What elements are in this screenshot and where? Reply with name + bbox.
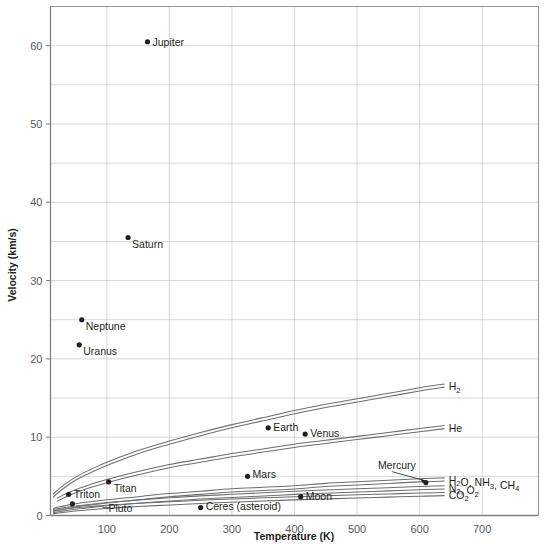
data-point-moon — [298, 494, 303, 499]
y-tick-label: 10 — [30, 431, 42, 443]
y-tick-label: 0 — [36, 510, 42, 522]
point-label-triton: Triton — [74, 488, 101, 500]
y-tick-label: 40 — [30, 196, 42, 208]
point-label-titan: Titan — [114, 482, 137, 494]
y-tick-label: 20 — [30, 353, 42, 365]
point-label-mercury: Mercury — [378, 459, 417, 471]
data-point-triton — [66, 492, 71, 497]
data-point-venus — [303, 431, 308, 436]
x-tick-label: 700 — [473, 523, 491, 535]
y-tick-label: 50 — [30, 118, 42, 130]
point-label-moon: Moon — [306, 490, 332, 502]
plot-area: JupiterSaturnNeptuneUranusEarthVenusMars… — [0, 0, 550, 544]
point-label-pluto: Pluto — [108, 502, 132, 514]
y-tick-label: 60 — [30, 40, 42, 52]
data-point-jupiter — [145, 39, 150, 44]
point-label-earth: Earth — [273, 421, 298, 433]
data-point-neptune — [79, 317, 84, 322]
point-label-jupiter: Jupiter — [152, 36, 184, 48]
data-point-titan — [106, 479, 111, 484]
x-tick-label: 300 — [223, 523, 241, 535]
x-tick-label: 500 — [348, 523, 366, 535]
point-label-mars: Mars — [253, 468, 276, 480]
point-label-uranus: Uranus — [83, 345, 117, 357]
point-label-ceres: Ceres (asteroid) — [206, 500, 281, 512]
data-point-ceres — [198, 505, 203, 510]
data-point-mars — [245, 474, 250, 479]
point-label-neptune: Neptune — [86, 320, 126, 332]
gas-label-he: He — [449, 422, 463, 434]
x-tick-label: 200 — [160, 523, 178, 535]
x-axis-title: Temperature (K) — [254, 530, 334, 542]
data-point-uranus — [77, 342, 82, 347]
y-tick-label: 30 — [30, 275, 42, 287]
data-point-pluto — [70, 501, 75, 506]
escape-velocity-chart: JupiterSaturnNeptuneUranusEarthVenusMars… — [0, 0, 550, 544]
chart-background — [0, 0, 550, 544]
x-tick-label: 100 — [98, 523, 116, 535]
data-point-earth — [266, 425, 271, 430]
point-label-venus: Venus — [310, 427, 339, 439]
y-axis-title: Velocity (km/s) — [6, 228, 18, 302]
data-point-saturn — [125, 235, 130, 240]
point-label-saturn: Saturn — [132, 238, 163, 250]
x-tick-label: 600 — [410, 523, 428, 535]
